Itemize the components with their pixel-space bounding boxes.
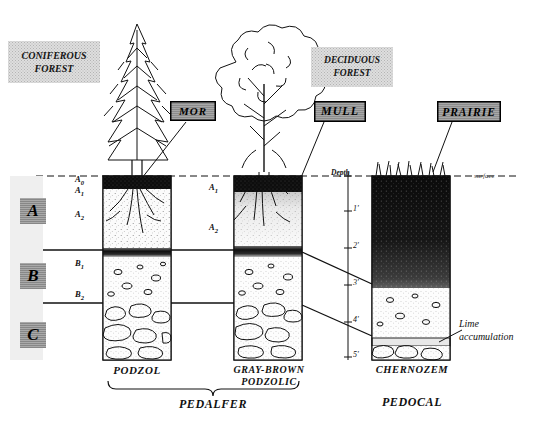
gray-brown-podzolic-column [234, 176, 302, 360]
caption-podzol: PODZOL [102, 364, 172, 376]
tag-mor[interactable]: MOR [170, 101, 216, 121]
biome-coniferous-line1: CONIFEROUS [21, 49, 86, 63]
caption-gbp-line2: PODZOLIC [224, 376, 314, 388]
depth-tick-4: 4' [353, 315, 359, 325]
lime-accumulation-label: Lime accumulation [459, 318, 513, 343]
biome-label-coniferous: CONIFEROUS FOREST [8, 41, 100, 83]
subhorizon-a1: A1 [75, 185, 84, 197]
subhorizon-a2-index: 2 [81, 214, 84, 221]
horizon-key-a-label: A [27, 201, 38, 221]
subhorizon-b2-index: 2 [81, 294, 84, 301]
subhorizon-mid-a1-index: 1 [215, 187, 218, 194]
podzol-column [103, 176, 171, 360]
lime-accumulation-line2: accumulation [459, 331, 513, 344]
subhorizon-a0: A0 [75, 174, 84, 186]
subhorizon-mid-a1: A1 [209, 182, 218, 194]
chernozem-column [372, 161, 450, 360]
horizon-key-b: B [20, 263, 46, 289]
soil-profile-figure: CONIFEROUS FOREST DECIDUOUS FOREST MOR M… [0, 0, 541, 421]
subhorizon-a2: A2 [75, 209, 84, 221]
biome-deciduous-line1: DECIDUOUS [324, 54, 380, 67]
group-label-pedalfer: PEDALFER [168, 397, 258, 412]
surface-line-label: surface [474, 172, 495, 181]
caption-chernozem: CHERNOZEM [371, 364, 453, 375]
subhorizon-b2: B2 [75, 289, 84, 301]
biome-coniferous-line2: FOREST [35, 62, 74, 76]
horizon-key-c: C [20, 322, 46, 348]
depth-tick-2: 2' [353, 241, 359, 251]
horizon-key-c-label: C [27, 325, 38, 345]
tag-mull-label: MULL [321, 104, 359, 119]
lime-accumulation-line1: Lime [459, 318, 513, 331]
horizon-key-a: A [20, 198, 46, 224]
depth-scale-label: Depth [331, 168, 350, 177]
depth-tick-5: 5' [353, 350, 359, 360]
subhorizon-b1: B1 [75, 258, 84, 270]
subhorizon-mid-a2-index: 2 [215, 227, 218, 234]
subhorizon-mid-a2: A2 [209, 222, 218, 234]
tag-prairie[interactable]: PRAIRIE [437, 101, 501, 122]
caption-gray-brown-podzolic: GRAY-BROWN PODZOLIC [224, 364, 314, 387]
tag-prairie-label: PRAIRIE [442, 106, 496, 118]
tag-mull[interactable]: MULL [314, 101, 366, 122]
group-label-pedocal: PEDOCAL [367, 395, 457, 410]
depth-scale [344, 172, 352, 360]
biome-deciduous-line2: FOREST [334, 67, 371, 80]
biome-label-deciduous: DECIDUOUS FOREST [311, 47, 393, 87]
conifer-tree-icon [104, 24, 172, 178]
subhorizon-a1-index: 1 [81, 190, 84, 197]
tag-mor-label: MOR [179, 105, 207, 117]
deciduous-tree-icon [215, 25, 325, 178]
depth-tick-3: 3' [353, 278, 359, 288]
horizon-key-b-label: B [27, 266, 38, 286]
depth-tick-1: 1' [353, 204, 359, 214]
caption-gbp-line1: GRAY-BROWN [224, 364, 314, 376]
horizon-boundary-lines [36, 250, 372, 336]
subhorizon-b1-index: 1 [81, 263, 84, 270]
